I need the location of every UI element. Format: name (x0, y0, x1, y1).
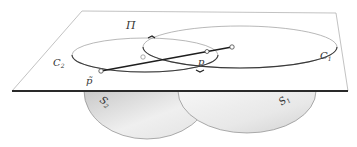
diagram-canvas: Π C2 C1 p p̃ S2 S1 (0, 0, 357, 147)
label-point-p: p (198, 56, 205, 67)
endpoint-marker (230, 45, 234, 49)
center-c2-marker (141, 55, 145, 59)
label-plane-pi: Π (125, 19, 136, 32)
label-point-p-tilde: p̃ (86, 75, 93, 86)
half-sphere-s1 (178, 91, 316, 133)
point-p (205, 50, 209, 54)
point-p-tilde (99, 69, 103, 73)
plane-pi (12, 11, 348, 91)
